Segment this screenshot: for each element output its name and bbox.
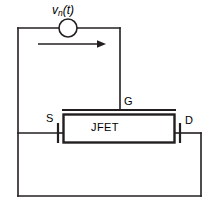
- source-voltage-label: vn(t): [52, 4, 74, 18]
- voltage-source-symbol: [59, 19, 77, 37]
- source-voltage-argument: (t): [63, 3, 74, 17]
- device-label: JFET: [0, 122, 210, 133]
- current-direction-arrow: [38, 40, 106, 48]
- gate-terminal-label: G: [124, 96, 133, 107]
- circuit-schematic-svg: [0, 0, 210, 210]
- jfet-circuit-figure: vn(t) G S D JFET: [0, 0, 210, 210]
